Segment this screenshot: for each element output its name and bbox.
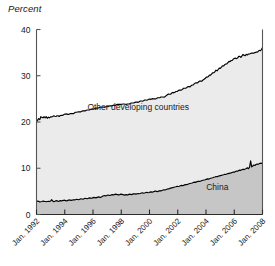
chart-plot: 010203040 Jan. 1992Jan. 1994Jan. 1996Jan… bbox=[0, 0, 275, 266]
x-tick-group: Jan. 1992Jan. 1994Jan. 1996Jan. 1998Jan.… bbox=[10, 210, 268, 248]
x-tick-label: Jan. 2002 bbox=[151, 216, 183, 248]
x-tick-label: Jan. 2006 bbox=[208, 216, 240, 248]
chart-container: Percent 010203040 Jan. 1992Jan. 1994Jan.… bbox=[0, 0, 275, 266]
y-tick-label: 0 bbox=[26, 210, 31, 220]
x-tick-label: Jan. 1994 bbox=[38, 216, 70, 248]
y-tick-label: 20 bbox=[21, 117, 31, 127]
x-tick-label: Jan. 2004 bbox=[180, 216, 212, 248]
y-tick-label: 40 bbox=[21, 25, 31, 35]
y-tick-label: 10 bbox=[21, 163, 31, 173]
y-tick-label: 30 bbox=[21, 71, 31, 81]
x-tick-label: Jan. 2000 bbox=[123, 216, 155, 248]
x-tick-label: Jan. 1998 bbox=[95, 216, 127, 248]
label-china: China bbox=[206, 182, 228, 192]
x-tick-label: Jan. 2008 bbox=[236, 216, 268, 248]
label-other-developing-countries: Other developing countries bbox=[87, 102, 189, 112]
area-series-group bbox=[37, 48, 263, 215]
x-tick-label: Jan. 1992 bbox=[10, 216, 42, 248]
x-tick-label: Jan. 1996 bbox=[67, 216, 99, 248]
